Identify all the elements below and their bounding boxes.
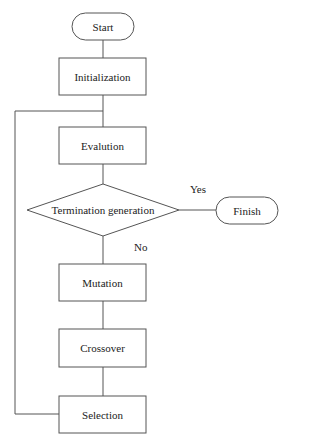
termination-decision: Termination generation: [27, 197, 179, 223]
initialization-node: Initialization: [59, 58, 146, 95]
no-edge-label: No: [134, 241, 147, 253]
start-node: Start: [72, 13, 134, 40]
yes-edge-label: Yes: [190, 183, 206, 195]
mutation-node: Mutation: [59, 264, 146, 301]
evaluation-node: Evalution: [59, 127, 146, 164]
finish-node: Finish: [216, 197, 278, 224]
crossover-node: Crossover: [59, 329, 146, 367]
selection-node: Selection: [59, 396, 146, 433]
